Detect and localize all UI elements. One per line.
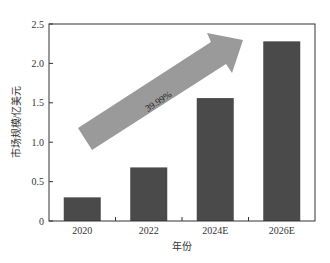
y-tick-label: 0.5 bbox=[32, 176, 45, 187]
y-axis-title: 市场规模/亿美元 bbox=[10, 86, 22, 159]
x-tick-label: 2026E bbox=[269, 225, 295, 236]
bar-chart: 39.99% 00.51.01.52.02.5 202020222024E202… bbox=[0, 0, 330, 263]
y-tick-label: 1.0 bbox=[32, 137, 45, 148]
x-axis-title: 年份 bbox=[172, 240, 192, 252]
x-axis-ticks: 202020222024E2026E bbox=[72, 217, 295, 236]
y-tick-label: 2.0 bbox=[32, 58, 45, 69]
x-tick-label: 2020 bbox=[72, 225, 92, 236]
y-tick-label: 1.5 bbox=[32, 97, 45, 108]
x-tick-label: 2024E bbox=[202, 225, 228, 236]
bar-2026E bbox=[263, 41, 300, 221]
bar-2020 bbox=[64, 197, 101, 221]
bar-2022 bbox=[130, 167, 167, 221]
bar-2024E bbox=[197, 98, 234, 221]
y-axis-ticks: 00.51.01.52.02.5 bbox=[32, 19, 54, 227]
y-tick-label: 0 bbox=[39, 216, 44, 227]
x-tick-label: 2022 bbox=[139, 225, 159, 236]
y-tick-label: 2.5 bbox=[32, 19, 45, 30]
